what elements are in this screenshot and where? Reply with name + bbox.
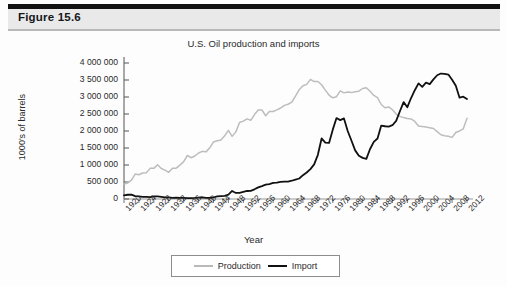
plot-area: 4 000 0003 500 0003 000 0002 500 0002 00…	[0, 34, 507, 286]
figure-label: Figure 15.6	[18, 11, 81, 23]
y-tick-label: 2 500 000	[44, 108, 118, 118]
figure-header: Figure 15.6	[0, 0, 507, 34]
y-tick-label: 0	[44, 193, 118, 203]
y-tick-label: 3 500 000	[44, 74, 118, 84]
figure-panel: Figure 15.6 U.S. Oil production and impo…	[0, 0, 507, 286]
legend-item-production: Production	[194, 261, 261, 271]
y-tick-label: 500 000	[44, 176, 118, 186]
legend-item-import: Import	[268, 261, 318, 271]
legend-label-import: Import	[292, 261, 318, 271]
chart-legend: Production Import	[171, 255, 340, 277]
y-tick-label: 2 000 000	[44, 125, 118, 135]
y-tick-label: 1 500 000	[44, 142, 118, 152]
y-tick-label: 1 000 000	[44, 159, 118, 169]
y-tick-label: 4 000 000	[44, 57, 118, 67]
legend-swatch-import-icon	[268, 265, 287, 267]
header-bottom-rule	[8, 29, 500, 31]
header-band	[8, 9, 500, 29]
legend-swatch-production-icon	[194, 265, 213, 267]
legend-label-production: Production	[218, 261, 261, 271]
chart-container: U.S. Oil production and imports 1000's o…	[0, 34, 507, 286]
y-tick-label: 3 000 000	[44, 91, 118, 101]
